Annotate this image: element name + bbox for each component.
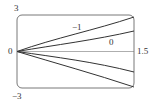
y-max-label: 3 xyxy=(14,4,19,13)
curve-4 xyxy=(17,52,134,88)
y-min-label: −3 xyxy=(12,92,22,101)
x-max-label: 1.5 xyxy=(137,47,148,56)
plot-area xyxy=(0,0,156,103)
origin-label: 0 xyxy=(8,47,13,56)
curve-label-neg1: −1 xyxy=(72,23,82,32)
curve-label-0: 0 xyxy=(109,38,114,47)
